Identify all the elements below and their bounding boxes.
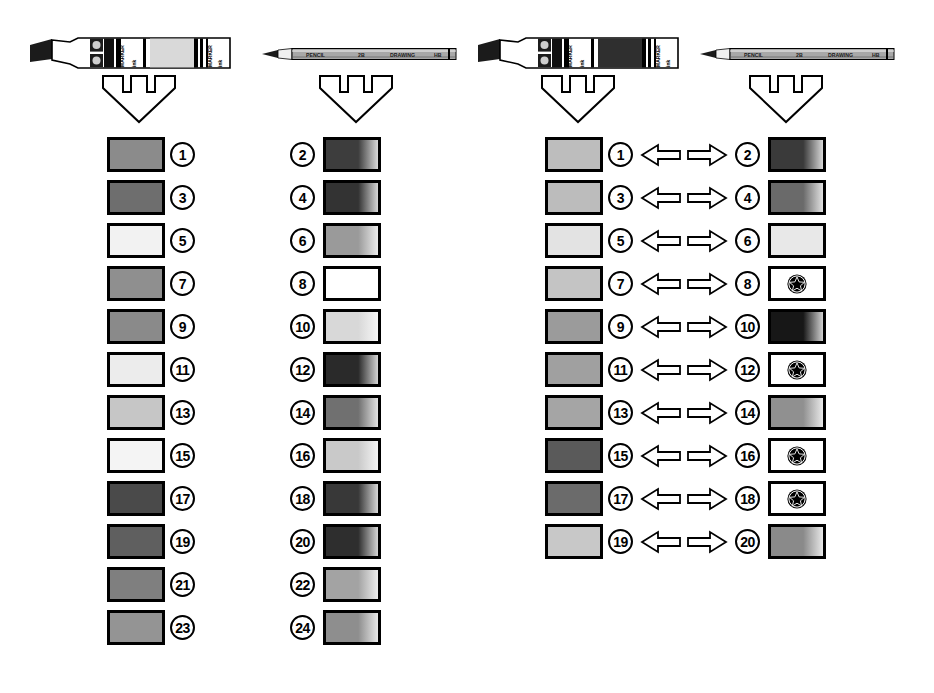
svg-text:ink: ink xyxy=(131,60,137,67)
swatch-number-badge[interactable]: 19 xyxy=(608,529,633,554)
color-swatch[interactable] xyxy=(107,395,165,430)
swatch-number-badge[interactable]: 10 xyxy=(290,314,315,339)
bidirectional-arrow-icon xyxy=(640,185,728,215)
color-swatch[interactable] xyxy=(545,137,603,172)
swatch-number-badge[interactable]: 22 xyxy=(290,572,315,597)
swatch-number-badge[interactable]: 6 xyxy=(735,228,760,253)
swatch-number-badge[interactable]: 13 xyxy=(608,400,633,425)
down-arrow-icon xyxy=(748,74,824,124)
swatch-number-badge[interactable]: 14 xyxy=(735,400,760,425)
color-swatch[interactable] xyxy=(545,180,603,215)
color-swatch[interactable] xyxy=(323,438,381,473)
swatch-number-badge[interactable]: 19 xyxy=(170,529,195,554)
pencil-icon: PENCIL2BDRAWINGHB xyxy=(700,46,896,62)
swatch-number-badge[interactable]: 1 xyxy=(608,142,633,167)
color-swatch[interactable] xyxy=(107,438,165,473)
color-swatch[interactable] xyxy=(768,352,826,387)
swatch-number-badge[interactable]: 9 xyxy=(608,314,633,339)
swatch-number-badge[interactable]: 9 xyxy=(170,314,195,339)
swatch-fill xyxy=(548,226,600,255)
color-swatch[interactable] xyxy=(107,180,165,215)
swatch-number-badge[interactable]: 16 xyxy=(290,443,315,468)
swatch-number-badge[interactable]: 23 xyxy=(170,615,195,640)
color-swatch[interactable] xyxy=(768,266,826,301)
color-swatch[interactable] xyxy=(107,309,165,344)
swatch-number-badge[interactable]: 15 xyxy=(608,443,633,468)
swatch-number-badge[interactable]: 7 xyxy=(608,271,633,296)
color-swatch[interactable] xyxy=(545,266,603,301)
swatch-number-badge[interactable]: 4 xyxy=(290,185,315,210)
color-swatch[interactable] xyxy=(323,309,381,344)
color-swatch[interactable] xyxy=(768,395,826,430)
swatch-number-badge[interactable]: 2 xyxy=(735,142,760,167)
color-swatch[interactable] xyxy=(107,352,165,387)
swatch-number-badge[interactable]: 12 xyxy=(290,357,315,382)
svg-text:PENCIL: PENCIL xyxy=(306,52,326,58)
color-swatch[interactable] xyxy=(768,524,826,559)
swatch-number-badge[interactable]: 20 xyxy=(735,529,760,554)
swatch-number-badge[interactable]: 6 xyxy=(290,228,315,253)
color-swatch[interactable] xyxy=(323,180,381,215)
color-swatch[interactable] xyxy=(768,223,826,258)
color-swatch[interactable] xyxy=(323,223,381,258)
swatch-fill xyxy=(110,613,162,642)
swatch-number-badge[interactable]: 5 xyxy=(170,228,195,253)
swatch-number-badge[interactable]: 5 xyxy=(608,228,633,253)
color-swatch[interactable] xyxy=(323,266,381,301)
color-swatch[interactable] xyxy=(545,395,603,430)
swatch-number-badge[interactable]: 2 xyxy=(290,142,315,167)
swatch-number-badge[interactable]: 3 xyxy=(170,185,195,210)
swatch-number-badge[interactable]: 21 xyxy=(170,572,195,597)
swatch-fill xyxy=(326,398,378,427)
color-swatch[interactable] xyxy=(545,481,603,516)
swatch-number-badge[interactable]: 15 xyxy=(170,443,195,468)
color-swatch[interactable] xyxy=(323,610,381,645)
color-swatch[interactable] xyxy=(768,481,826,516)
swatch-number-badge[interactable]: 11 xyxy=(608,357,633,382)
color-swatch[interactable] xyxy=(323,395,381,430)
bidirectional-arrow-icon xyxy=(640,486,728,516)
swatch-number-badge[interactable]: 3 xyxy=(608,185,633,210)
color-swatch[interactable] xyxy=(107,223,165,258)
color-swatch[interactable] xyxy=(323,137,381,172)
swatch-number-badge[interactable]: 10 xyxy=(735,314,760,339)
color-swatch[interactable] xyxy=(323,481,381,516)
swatch-number-badge[interactable]: 13 xyxy=(170,400,195,425)
color-swatch[interactable] xyxy=(768,137,826,172)
color-swatch[interactable] xyxy=(768,438,826,473)
swatch-number-badge[interactable]: 17 xyxy=(170,486,195,511)
swatch-number-badge[interactable]: 24 xyxy=(290,615,315,640)
color-swatch[interactable] xyxy=(545,524,603,559)
color-swatch[interactable] xyxy=(107,567,165,602)
color-swatch[interactable] xyxy=(545,309,603,344)
color-swatch[interactable] xyxy=(107,610,165,645)
swatch-number-badge[interactable]: 17 xyxy=(608,486,633,511)
swatch-number-badge[interactable]: 16 xyxy=(735,443,760,468)
swatch-fill xyxy=(326,183,378,212)
color-swatch[interactable] xyxy=(323,352,381,387)
swatch-number-badge[interactable]: 8 xyxy=(735,271,760,296)
swatch-number-badge[interactable]: 4 xyxy=(735,185,760,210)
color-swatch[interactable] xyxy=(545,223,603,258)
color-swatch[interactable] xyxy=(323,524,381,559)
color-swatch[interactable] xyxy=(107,481,165,516)
color-swatch[interactable] xyxy=(768,309,826,344)
color-swatch[interactable] xyxy=(545,438,603,473)
color-swatch[interactable] xyxy=(107,524,165,559)
bidirectional-arrow-icon xyxy=(640,529,728,559)
swatch-number-badge[interactable]: 20 xyxy=(290,529,315,554)
swatch-number-badge[interactable]: 18 xyxy=(735,486,760,511)
swatch-number-badge[interactable]: 7 xyxy=(170,271,195,296)
color-swatch[interactable] xyxy=(768,180,826,215)
swatch-number-badge[interactable]: 11 xyxy=(170,357,195,382)
swatch-number-badge[interactable]: 18 xyxy=(290,486,315,511)
color-swatch[interactable] xyxy=(323,567,381,602)
color-swatch[interactable] xyxy=(545,352,603,387)
swatch-number-badge[interactable]: 8 xyxy=(290,271,315,296)
swatch-number-badge[interactable]: 1 xyxy=(170,142,195,167)
swatch-number-badge[interactable]: 14 xyxy=(290,400,315,425)
color-swatch[interactable] xyxy=(107,266,165,301)
color-swatch[interactable] xyxy=(107,137,165,172)
swatch-fill xyxy=(110,398,162,427)
swatch-number-badge[interactable]: 12 xyxy=(735,357,760,382)
